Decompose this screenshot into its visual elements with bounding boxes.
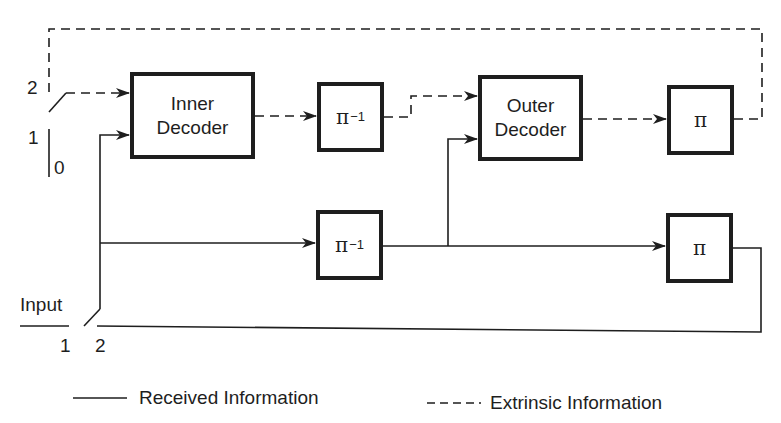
inner-decoder-label: Inner Decoder — [132, 74, 253, 157]
inverse-exponent: −1 — [349, 233, 364, 257]
switch-top-arm — [49, 93, 66, 112]
outer-decoder-label: Outer Decoder — [480, 77, 581, 159]
pi-symbol: π — [336, 105, 349, 129]
deinterleaver-bottom-label: π−1 — [318, 212, 381, 278]
diagram-canvas — [0, 0, 781, 423]
deinterleaver-top-label: π−1 — [319, 84, 382, 150]
inner-decoder-line1: Inner — [171, 92, 214, 116]
received-to-outer-line — [448, 139, 477, 246]
deinterleaver-to-outer-dashed-line — [384, 96, 477, 117]
interleaver-bottom-label: π — [668, 215, 731, 281]
switch-top-pos2-label: 2 — [27, 78, 38, 97]
pi-symbol: π — [335, 233, 348, 257]
switch-top-pos1-label: 1 — [28, 128, 39, 147]
outer-decoder-line2: Decoder — [495, 118, 567, 142]
outer-decoder-line1: Outer — [507, 94, 555, 118]
switch-bottom-arm — [84, 309, 100, 326]
switch-bottom-pos2-label: 2 — [95, 336, 106, 355]
inverse-exponent: −1 — [350, 105, 365, 129]
switch-top-pos0-label: 0 — [54, 158, 65, 177]
inner-decoder-line2: Decoder — [157, 116, 229, 140]
input-label: Input — [20, 295, 62, 314]
legend-received-label: Received Information — [139, 388, 319, 407]
switch-bottom-pos1-label: 1 — [60, 336, 71, 355]
interleaver-return-line — [97, 248, 761, 332]
received-to-inner-line — [100, 135, 129, 309]
pi-symbol: π — [693, 236, 706, 260]
legend-extrinsic-label: Extrinsic Information — [490, 393, 662, 412]
interleaver-top-label: π — [669, 87, 732, 153]
pi-symbol: π — [694, 108, 707, 132]
